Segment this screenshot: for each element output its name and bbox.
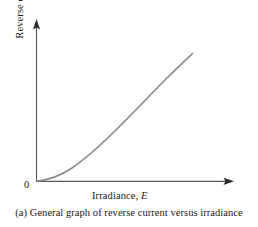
x-axis-label-prefix: Irradiance, (92, 190, 141, 201)
photodiode-response-figure: Reverse current, (Iλ) Irradiance, E 0 (a… (0, 0, 258, 227)
x-axis-label: Irradiance, E (92, 189, 148, 202)
plot-svg (0, 0, 258, 205)
data-curve (37, 54, 193, 182)
y-axis-label: Reverse current, (Iλ) (13, 0, 27, 60)
origin-label: 0 (24, 178, 29, 191)
figure-caption: (a) General graph of reverse current ver… (0, 206, 258, 220)
y-axis-label-prefix: Reverse current, ( (14, 0, 25, 39)
x-axis-label-symbol: E (141, 190, 148, 201)
plot-area: Reverse current, (Iλ) Irradiance, E 0 (0, 0, 258, 205)
